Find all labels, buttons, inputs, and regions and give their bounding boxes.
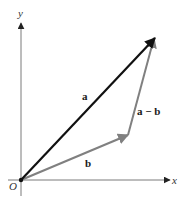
origin-label: O (9, 180, 17, 192)
y-axis-label: y (17, 7, 23, 19)
vector-b (21, 135, 128, 180)
vector-b-label: b (85, 157, 91, 169)
vector-diagram: y x O a b a − b (0, 0, 181, 206)
origin-point (19, 178, 23, 182)
x-axis-label: x (171, 174, 177, 186)
vector-a-minus-b-label: a − b (137, 105, 160, 117)
vector-a-label: a (82, 90, 88, 102)
